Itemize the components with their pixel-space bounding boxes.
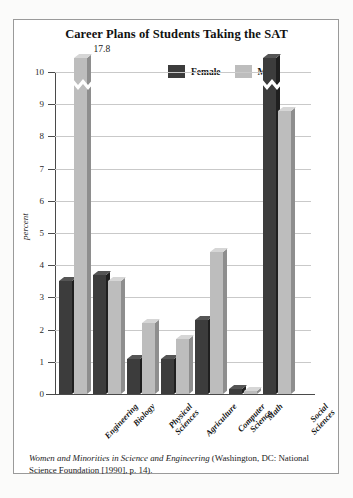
- bar-female-math: [229, 389, 242, 394]
- bar-male-agriculture: [176, 339, 189, 394]
- bar-face: [210, 252, 223, 394]
- bar-face: [142, 323, 155, 394]
- y-axis-title: percent: [20, 213, 30, 240]
- bar-side: [87, 54, 91, 394]
- bar-female-computer-science: [195, 320, 208, 394]
- chart-title: Career Plans of Students Taking the SAT: [0, 27, 353, 42]
- axis-break-marker: [73, 79, 93, 90]
- y-axis-tick: [48, 297, 55, 298]
- value-label: 17.8: [94, 44, 111, 54]
- bar-male-social-sciences: [278, 111, 291, 394]
- plot-area: 01234567891017.8EngineeringBiologyPhysic…: [55, 72, 315, 394]
- y-axis-tick: [48, 169, 55, 170]
- bar-face: [263, 58, 276, 394]
- bar-female-physical-sciences: [127, 359, 140, 394]
- bar-face: [195, 320, 208, 394]
- y-axis-tick-label: 6: [40, 196, 45, 206]
- bar-male-math: [244, 391, 257, 394]
- y-axis-tick-label: 7: [40, 164, 45, 174]
- y-axis-tick-label: 1: [40, 357, 45, 367]
- bar-side: [189, 336, 193, 394]
- figure-page: Career Plans of Students Taking the SAT …: [0, 0, 353, 498]
- bar-face: [278, 111, 291, 394]
- y-axis-tick: [48, 201, 55, 202]
- bar-male-engineering: [74, 58, 87, 394]
- bar-male-biology: [108, 281, 121, 394]
- bar-side: [291, 108, 295, 394]
- y-axis-tick-label: 4: [40, 260, 45, 270]
- y-axis-tick-label: 10: [35, 67, 44, 77]
- bar-side: [155, 320, 159, 394]
- y-axis-tick: [48, 233, 55, 234]
- y-axis-tick-label: 5: [40, 228, 45, 238]
- bar-face: [229, 389, 242, 394]
- bar-face: [93, 275, 106, 394]
- bar-face: [161, 359, 174, 394]
- bar-face: [127, 359, 140, 394]
- bar-female-biology: [93, 275, 106, 394]
- y-axis-tick: [48, 362, 55, 363]
- y-axis-tick-label: 2: [40, 325, 45, 335]
- y-axis-tick: [48, 104, 55, 105]
- bar-female-engineering: [59, 281, 72, 394]
- bar-female-social-sciences: [263, 58, 276, 394]
- bar-male-computer-science: [210, 252, 223, 394]
- bar-face: [74, 58, 87, 394]
- bar-face: [108, 281, 121, 394]
- y-axis-tick: [48, 394, 55, 395]
- y-axis-tick-label: 3: [40, 292, 45, 302]
- y-axis-tick-label: 9: [40, 99, 45, 109]
- y-axis-tick: [48, 136, 55, 137]
- bar-face: [244, 391, 257, 394]
- bar-side: [223, 249, 227, 394]
- y-axis-tick: [48, 265, 55, 266]
- y-axis-tick: [48, 330, 55, 331]
- axis-break-marker: [262, 79, 282, 90]
- bar-face: [176, 339, 189, 394]
- caption-source-title: Women and Minorities in Science and Engi…: [29, 453, 210, 463]
- y-axis-tick-label: 8: [40, 131, 45, 141]
- figure-caption: Women and Minorities in Science and Engi…: [29, 452, 321, 477]
- bar-female-agriculture: [161, 359, 174, 394]
- y-axis-tick-label: 0: [40, 389, 45, 399]
- y-axis-tick: [48, 72, 55, 73]
- bar-face: [59, 281, 72, 394]
- bar-side: [121, 278, 125, 394]
- bar-male-physical-sciences: [142, 323, 155, 394]
